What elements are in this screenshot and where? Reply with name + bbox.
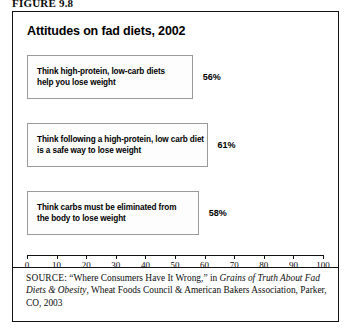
axis-tick: [57, 255, 58, 259]
axis-tick: [293, 255, 294, 259]
source-text-part1: “Where Consumers Have It Wrong,” in: [67, 273, 220, 283]
axis-tick-label: 0: [25, 260, 30, 270]
axis-tick-label: 60: [200, 260, 209, 270]
axis-tick-label: 20: [82, 260, 91, 270]
bar-row: Think following a high-protein, low carb…: [27, 123, 323, 167]
source-divider: [13, 267, 338, 268]
figure-number-label: FIGURE 9.8: [12, 0, 73, 9]
axis-tick: [234, 255, 235, 259]
axis-tick-label: 90: [289, 260, 298, 270]
bar-value-label: 56%: [203, 72, 221, 82]
axis-tick: [323, 255, 324, 259]
source-note: SOURCE: “Where Consumers Have It Wrong,”…: [26, 272, 329, 309]
chart-area: Attitudes on fad diets, 2002 Think high-…: [13, 12, 338, 267]
bar-chart-plot: Think high-protein, low-carb diets help …: [27, 53, 323, 255]
axis-tick-label: 40: [141, 260, 150, 270]
source-keyword: SOURCE:: [26, 273, 67, 283]
axis-tick: [116, 255, 117, 259]
bar-row: Think high-protein, low-carb diets help …: [27, 55, 323, 99]
bar-category-label: Think following a high-protein, low carb…: [37, 135, 204, 156]
figure-box: Attitudes on fad diets, 2002 Think high-…: [12, 11, 339, 322]
bar-category-label: Think high-protein, low-carb diets help …: [37, 67, 165, 88]
axis-tick-label: 50: [171, 260, 180, 270]
axis-tick: [264, 255, 265, 259]
axis-tick: [27, 255, 28, 259]
axis-tick: [145, 255, 146, 259]
axis-tick: [205, 255, 206, 259]
axis-tick-label: 80: [259, 260, 268, 270]
axis-tick-label: 10: [52, 260, 61, 270]
bar[interactable]: Think following a high-protein, low carb…: [27, 123, 208, 167]
bar[interactable]: Think carbs must be eliminated from the …: [27, 191, 199, 235]
axis-tick-label: 30: [111, 260, 120, 270]
bar-value-label: 58%: [209, 208, 227, 218]
bar[interactable]: Think high-protein, low-carb diets help …: [27, 55, 193, 99]
axis-tick: [86, 255, 87, 259]
chart-title: Attitudes on fad diets, 2002: [27, 24, 185, 38]
axis-tick: [175, 255, 176, 259]
axis-tick-label: 100: [316, 260, 330, 270]
bar-category-label: Think carbs must be eliminated from the …: [37, 203, 176, 224]
bar-value-label: 61%: [218, 140, 236, 150]
bar-row: Think carbs must be eliminated from the …: [27, 191, 323, 235]
axis-tick-label: 70: [230, 260, 239, 270]
